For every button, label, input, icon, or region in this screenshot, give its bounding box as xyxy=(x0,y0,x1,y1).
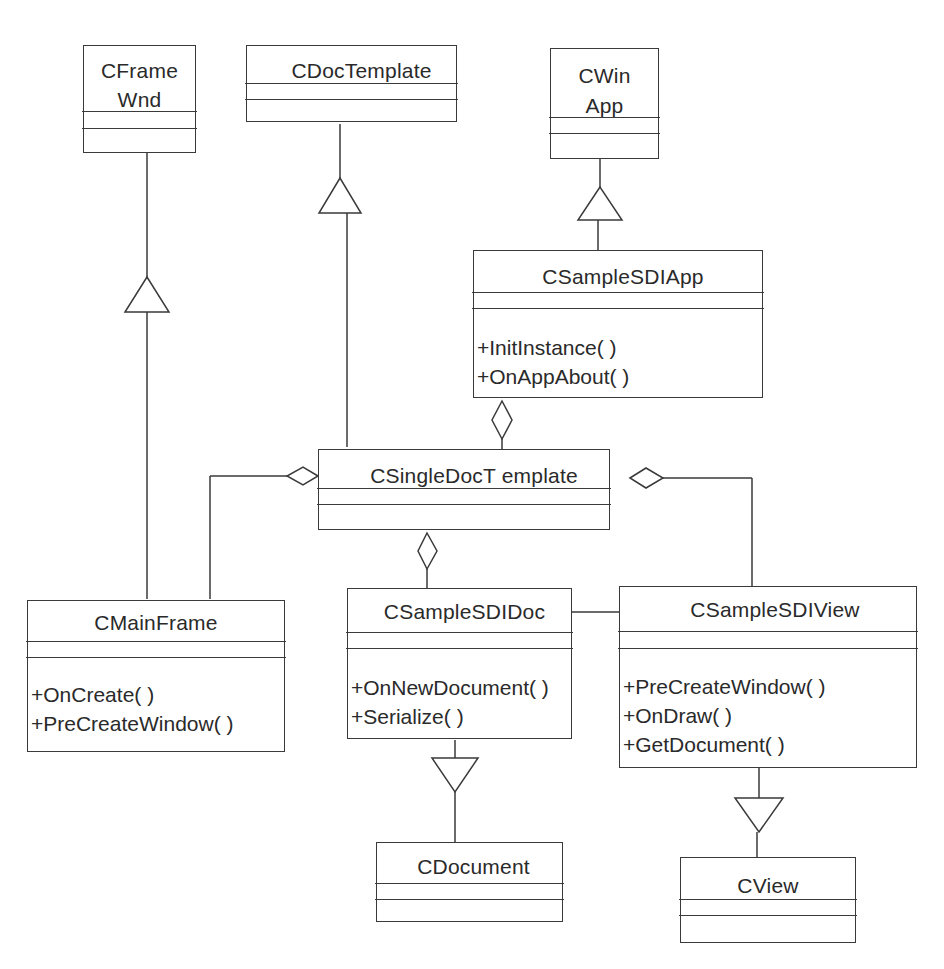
class-name: CWin App xyxy=(551,49,658,121)
class-name: CSampleSDIView xyxy=(620,587,916,622)
operations-separator xyxy=(549,133,660,134)
operations-separator xyxy=(375,899,564,900)
aggregation-diamond-view-icon xyxy=(630,468,663,488)
operations-separator xyxy=(82,128,197,129)
class-csamplesdiview[interactable]: CSampleSDIView +PreCreateWindow( ) +OnDr… xyxy=(619,586,917,768)
operations-separator xyxy=(245,99,458,100)
attributes-separator xyxy=(317,488,611,489)
attributes-separator xyxy=(618,631,918,632)
attributes-separator xyxy=(245,83,458,84)
class-name: CDocTemplate xyxy=(247,46,456,83)
operations-list: +OnNewDocument( ) +Serialize( ) xyxy=(351,673,549,731)
aggregation-diamond-app-icon xyxy=(492,401,512,439)
class-name: CSingleDocT emplate xyxy=(319,450,609,488)
class-name: CDocument xyxy=(377,843,562,879)
operations-separator xyxy=(346,648,573,649)
operation-precreatewindow: +PreCreateWindow( ) xyxy=(31,709,233,738)
class-name: CMainFrame xyxy=(28,601,284,635)
operations-separator xyxy=(472,308,764,309)
attributes-separator xyxy=(375,883,564,884)
class-csamplesdidoc[interactable]: CSampleSDIDoc +OnNewDocument( ) +Seriali… xyxy=(347,588,572,739)
operations-list: +OnCreate( ) +PreCreateWindow( ) xyxy=(31,680,233,738)
class-name: CView xyxy=(681,858,855,898)
operation-oncreate: +OnCreate( ) xyxy=(31,680,233,709)
class-cwinapp[interactable]: CWin App xyxy=(550,48,659,159)
class-name-line-1: CFrame xyxy=(84,56,195,85)
operation-serialize: +Serialize( ) xyxy=(351,702,549,731)
attributes-separator xyxy=(472,292,764,293)
attributes-separator xyxy=(346,632,573,633)
operations-separator xyxy=(618,648,918,649)
class-cdoctemplate[interactable]: CDocTemplate xyxy=(246,45,457,122)
class-name: CSampleSDIDoc xyxy=(348,589,571,624)
generalization-arrow-cwinapp-icon xyxy=(578,187,622,220)
attributes-separator xyxy=(549,117,660,118)
aggregation-diamond-mainframe-icon xyxy=(287,467,318,485)
operation-precreatewindow: +PreCreateWindow( ) xyxy=(623,672,825,701)
class-name-line-1: CWin xyxy=(551,61,658,91)
class-name: CSampleSDIApp xyxy=(474,251,762,289)
aggregation-diamond-doc-icon xyxy=(418,533,437,569)
class-cframewnd[interactable]: CFrame Wnd xyxy=(83,45,196,153)
operation-onnewdocument: +OnNewDocument( ) xyxy=(351,673,549,702)
operation-ondraw: +OnDraw( ) xyxy=(623,701,825,730)
class-name: CFrame Wnd xyxy=(84,46,195,114)
operations-separator xyxy=(679,915,857,916)
operation-getdocument: +GetDocument( ) xyxy=(623,730,825,759)
class-csamplesdiapp[interactable]: CSampleSDIApp +InitInstance( ) +OnAppAbo… xyxy=(473,250,763,398)
attributes-separator xyxy=(82,111,197,112)
generalization-arrow-cdoctemplate-icon xyxy=(319,178,361,213)
class-name-line-2: Wnd xyxy=(84,85,195,114)
class-cdocument[interactable]: CDocument xyxy=(376,842,563,922)
class-cmainframe[interactable]: CMainFrame +OnCreate( ) +PreCreateWindow… xyxy=(27,600,285,752)
operation-onappabout: +OnAppAbout( ) xyxy=(477,362,629,391)
operations-list: +PreCreateWindow( ) +OnDraw( ) +GetDocum… xyxy=(623,672,825,759)
generalization-arrow-cframewnd-icon xyxy=(125,277,169,312)
operation-initinstance: +InitInstance( ) xyxy=(477,333,629,362)
generalization-arrow-cdocument-icon xyxy=(432,758,478,792)
class-csingledoctemplate[interactable]: CSingleDocT emplate xyxy=(318,449,610,530)
class-cview[interactable]: CView xyxy=(680,857,856,943)
attributes-separator xyxy=(679,899,857,900)
operations-list: +InitInstance( ) +OnAppAbout( ) xyxy=(477,333,629,391)
generalization-arrow-cview-icon xyxy=(735,798,783,832)
operations-separator xyxy=(317,504,611,505)
operations-separator xyxy=(26,657,286,658)
attributes-separator xyxy=(26,641,286,642)
